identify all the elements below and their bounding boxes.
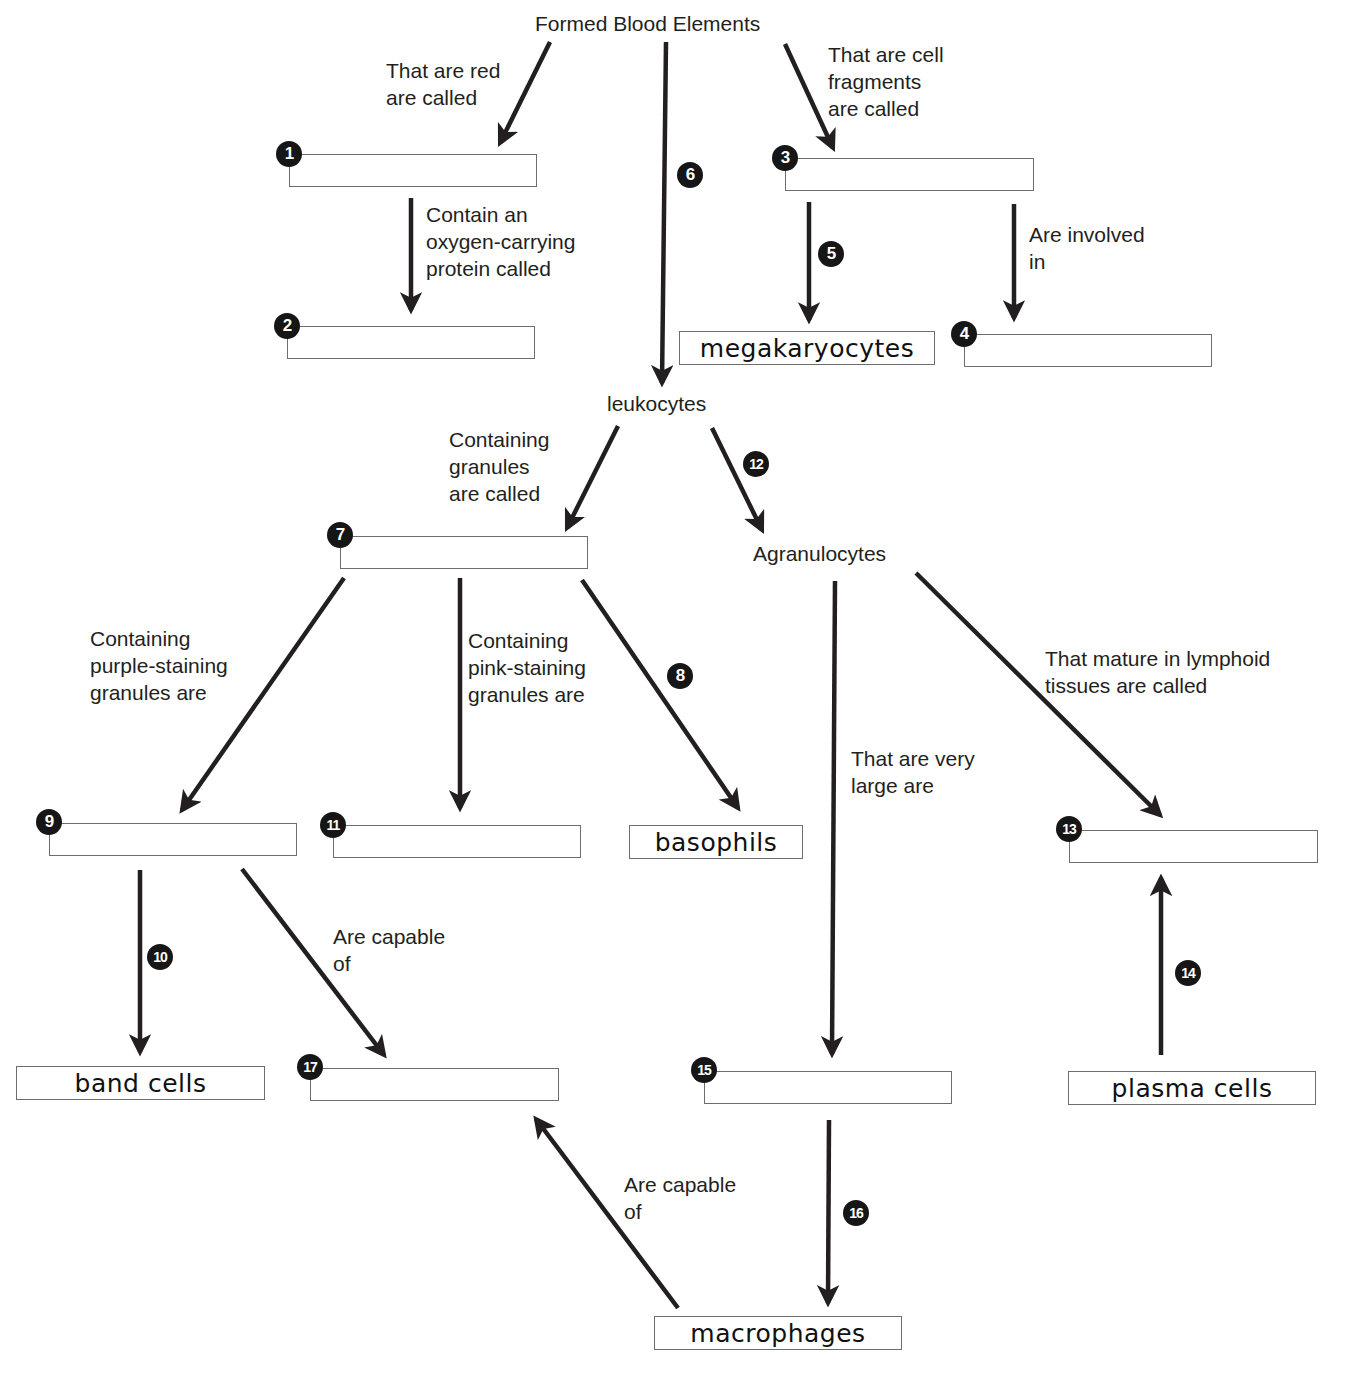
answer-field-11[interactable] [333, 825, 581, 858]
label-pink: Containing pink-staining granules are [468, 627, 586, 708]
number-badge-11: 11 [320, 812, 346, 838]
label-involved: Are involved in [1029, 221, 1145, 275]
arrow-12-to-agranulocytes [712, 428, 762, 530]
number-badge-8: 8 [667, 663, 693, 689]
arrow-6-to-leukocytes [662, 42, 666, 383]
arrow-to-7 [567, 426, 618, 528]
number-badge-16: 16 [843, 1200, 869, 1226]
label-oxygen: Contain an oxygen-carrying protein calle… [426, 201, 575, 282]
number-badge-10: 10 [147, 944, 173, 970]
box-basophils: basophils [629, 825, 803, 859]
arrow-8-to-basophils [582, 580, 738, 808]
answer-field-15[interactable] [704, 1071, 952, 1104]
answer-field-7[interactable] [340, 536, 588, 569]
label-granules: Containing granules are called [449, 426, 549, 507]
arrow-to-1 [500, 42, 550, 143]
title-formed-blood-elements: Formed Blood Elements [535, 11, 760, 37]
box-megakaryocytes: megakaryocytes [679, 331, 935, 365]
label-fragments: That are cell fragments are called [828, 41, 944, 122]
number-badge-3: 3 [772, 145, 798, 171]
answer-field-2[interactable] [287, 326, 535, 359]
label-very-large: That are very large are [851, 745, 975, 799]
arrow-to-15 [832, 581, 835, 1054]
number-badge-6: 6 [677, 162, 703, 188]
number-badge-15: 15 [691, 1057, 717, 1083]
label-capable-macrophages: Are capable of [624, 1171, 736, 1225]
label-purple: Containing purple-staining granules are [90, 625, 228, 706]
number-badge-17: 17 [297, 1054, 323, 1080]
number-badge-9: 9 [36, 809, 62, 835]
arrow-16-to-macrophages [828, 1120, 829, 1303]
answer-field-9[interactable] [49, 823, 297, 856]
number-badge-13: 13 [1056, 816, 1082, 842]
answer-field-4[interactable] [964, 334, 1212, 367]
number-badge-14: 14 [1175, 960, 1201, 986]
number-badge-5: 5 [818, 241, 844, 267]
number-badge-7: 7 [327, 522, 353, 548]
box-macrophages: macrophages [654, 1316, 902, 1350]
number-badge-12: 12 [743, 451, 769, 477]
arrow-to-3 [785, 44, 833, 148]
answer-field-13[interactable] [1069, 830, 1318, 863]
box-band-cells: band cells [16, 1066, 265, 1100]
box-plasma-cells: plasma cells [1068, 1071, 1316, 1105]
label-capable-17: Are capable of [333, 923, 445, 977]
answer-field-3[interactable] [785, 158, 1034, 191]
label-red: That are red are called [386, 57, 500, 111]
label-lymphoid: That mature in lymphoid tissues are call… [1045, 645, 1270, 699]
node-leukocytes: leukocytes [607, 391, 706, 417]
number-badge-4: 4 [951, 321, 977, 347]
answer-field-1[interactable] [289, 154, 537, 187]
node-agranulocytes: Agranulocytes [753, 541, 886, 567]
number-badge-1: 1 [276, 141, 302, 167]
answer-field-17[interactable] [310, 1068, 559, 1101]
number-badge-2: 2 [274, 313, 300, 339]
